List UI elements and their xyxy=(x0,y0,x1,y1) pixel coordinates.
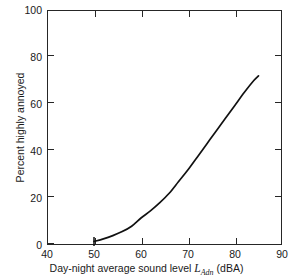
x-axis-title-subscript: Adn xyxy=(201,268,214,277)
x-tick-label-50: 50 xyxy=(88,249,100,260)
y-tick-label-80: 80 xyxy=(30,52,42,63)
annoyance-curve-figure: 100 80 60 40 20 0 40 50 60 70 80 90 Perc… xyxy=(0,0,293,280)
x-tick-label-60: 60 xyxy=(135,249,147,260)
y-tick-label-100: 100 xyxy=(24,5,42,16)
y-tick-label-60: 60 xyxy=(30,99,42,110)
x-tick-label-70: 70 xyxy=(182,249,194,260)
x-axis-title: Day-night average sound level LAdn(dBA) xyxy=(0,262,293,277)
y-tick-label-20: 20 xyxy=(30,193,42,204)
x-tick-label-80: 80 xyxy=(229,249,241,260)
x-tick-label-90: 90 xyxy=(276,249,288,260)
curve-path xyxy=(94,76,259,242)
y-axis-title: Percent highly annoyed xyxy=(13,10,27,245)
x-axis-title-unit: (dBA) xyxy=(217,262,244,274)
y-tick-label-40: 40 xyxy=(30,146,42,157)
data-curve xyxy=(47,10,282,245)
x-tick-label-40: 40 xyxy=(41,249,53,260)
x-axis-title-text: Day-night average sound level xyxy=(50,262,192,274)
